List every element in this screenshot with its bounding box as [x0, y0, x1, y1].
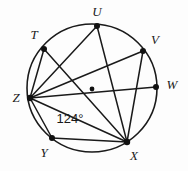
chord-Z-V — [30, 51, 143, 98]
point-label-t: T — [30, 27, 38, 42]
angle-annotation-group: 124° — [57, 111, 84, 126]
point-label-w: W — [167, 77, 179, 92]
point-label-v: V — [151, 32, 161, 47]
circle-center-dot — [90, 87, 95, 92]
point-label-x: X — [129, 148, 139, 163]
point-label-z: Z — [12, 90, 20, 105]
geometry-figure: TUVWXYZ 124° — [0, 0, 188, 171]
angle-label-124: 124° — [57, 111, 84, 126]
vertex-dot-y — [49, 135, 55, 141]
point-label-u: U — [92, 4, 103, 19]
vertex-dot-x — [124, 139, 130, 145]
vertex-dot-v — [140, 48, 146, 54]
circle-diagram-canvas: TUVWXYZ 124° — [0, 0, 188, 171]
vertex-dot-t — [41, 46, 47, 52]
chord-Z-Y — [30, 98, 52, 138]
point-label-y: Y — [40, 145, 49, 160]
vertex-dot-u — [94, 23, 100, 29]
chord-V-X — [127, 51, 143, 142]
vertex-dot-z — [27, 95, 33, 101]
chord-Y-X — [52, 138, 127, 142]
vertex-dot-w — [153, 84, 159, 90]
chord-group — [30, 26, 156, 142]
